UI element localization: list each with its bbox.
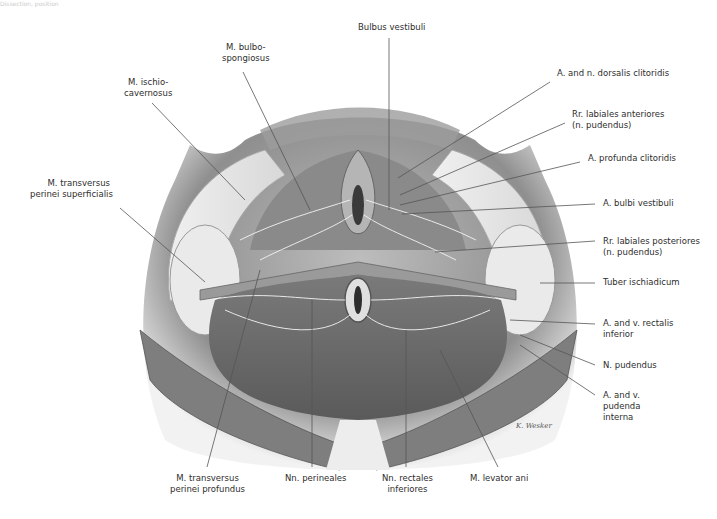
artist-signature: K. Wesker [515,422,552,430]
label-m-transversus-perinei-superficialis: M. transversus perinei superficialis [30,178,110,200]
label-nn-perineales: Nn. perineales [285,473,346,484]
label-tuber-ischiadicum: Tuber ischiadicum [603,277,680,288]
vaginal-orifice [352,185,364,225]
label-m-bulbospongiosus: M. bulbo- spongiosus [222,42,270,64]
label-m-transversus-perinei-profundus: M. transversus perinei profundus [170,473,245,495]
label-a-v-rectalis-inferior: A. and v. rectalis inferior [603,318,673,340]
label-a-profunda-clitoridis: A. profunda clitoridis [588,153,676,164]
label-a-n-dorsalis-clitoridis: A. and n. dorsalis clitoridis [557,68,669,79]
label-rr-labiales-posteriores: Rr. labiales posteriores (n. pudendus) [603,236,700,258]
label-m-ischiocavernosus: M. ischio- cavernosus [124,77,172,99]
label-a-bulbi-vestibuli: A. bulbi vestibuli [603,198,674,209]
label-bulbus-vestibuli: Bulbus vestibuli [358,22,425,33]
label-nn-rectales-inferiores: Nn. rectales inferiores [382,473,433,495]
label-m-levator-ani: M. levator ani [470,473,528,484]
label-rr-labiales-anteriores: Rr. labiales anteriores (n. pudendus) [572,109,664,131]
label-a-v-pudenda-interna: A. and v. pudenda interna [603,390,640,423]
label-n-pudendus: N. pudendus [603,360,657,371]
